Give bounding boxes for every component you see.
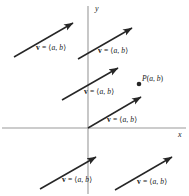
angle-bracket-close: ⟩: [164, 177, 167, 186]
vector-bottom-right-label: v = ⟨a, b⟩: [137, 178, 167, 186]
angle-bracket-close: ⟩: [63, 43, 66, 52]
vector-origin-label: v = ⟨a, b⟩: [107, 116, 137, 124]
angle-bracket-close: ⟩: [134, 115, 137, 124]
angle-bracket-close: ⟩: [89, 175, 92, 184]
point-marker-group: [137, 82, 142, 87]
diagram-canvas: [0, 0, 189, 196]
vector-bottom-left-label: v = ⟨a, b⟩: [62, 176, 92, 184]
vector-top-right-label: v = ⟨a, b⟩: [98, 47, 128, 55]
angle-bracket-close: ⟩: [125, 46, 128, 55]
vector-top-left-label: v = ⟨a, b⟩: [36, 44, 66, 52]
x-axis-label: x: [178, 131, 182, 139]
point-p-label: P(a, b): [142, 75, 163, 83]
point-paren-close: ): [161, 74, 164, 83]
vector-diagram-figure: y x P(a, b) v = ⟨a, b⟩v = ⟨a, b⟩v = ⟨a, …: [0, 0, 189, 196]
vector-middle-left-label: v = ⟨a, b⟩: [84, 88, 114, 96]
y-axis-label: y: [95, 5, 99, 13]
axes-group: [2, 6, 186, 194]
point-p-marker: [137, 82, 142, 87]
angle-bracket-close: ⟩: [111, 87, 114, 96]
